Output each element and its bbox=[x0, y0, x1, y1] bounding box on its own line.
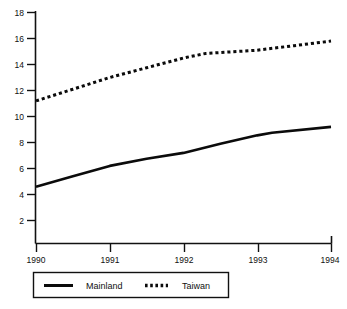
x-tick-label-1992: 1992 bbox=[175, 255, 194, 265]
line-chart: 18 16 14 12 10 8 6 4 2 1990 1991 1992 19… bbox=[0, 0, 347, 309]
y-tick-label-2: 2 bbox=[19, 216, 24, 226]
y-tick-label-16: 16 bbox=[15, 34, 25, 44]
x-axis-ticks bbox=[37, 244, 332, 253]
chart-legend: Mainland Taiwan bbox=[34, 273, 229, 298]
y-tick-label-6: 6 bbox=[19, 164, 24, 174]
legend-label-taiwan: Taiwan bbox=[182, 281, 210, 291]
y-tick-label-12: 12 bbox=[15, 86, 25, 96]
y-tick-label-18: 18 bbox=[15, 8, 25, 18]
series-line-taiwan bbox=[36, 41, 331, 101]
x-tick-label-1994: 1994 bbox=[321, 255, 340, 265]
y-axis-tick-labels: 18 16 14 12 10 8 6 4 2 bbox=[15, 8, 25, 226]
y-axis-ticks bbox=[27, 13, 36, 221]
y-tick-label-4: 4 bbox=[19, 190, 24, 200]
y-tick-label-10: 10 bbox=[15, 112, 25, 122]
chart-series-group bbox=[36, 41, 331, 187]
legend-label-mainland: Mainland bbox=[86, 281, 123, 291]
chart-canvas: 18 16 14 12 10 8 6 4 2 1990 1991 1992 19… bbox=[0, 0, 347, 309]
y-tick-label-8: 8 bbox=[19, 138, 24, 148]
series-line-mainland bbox=[36, 127, 331, 187]
x-tick-label-1990: 1990 bbox=[27, 255, 46, 265]
y-tick-label-14: 14 bbox=[15, 60, 25, 70]
x-tick-label-1993: 1993 bbox=[249, 255, 268, 265]
x-tick-label-1991: 1991 bbox=[101, 255, 120, 265]
x-axis-tick-labels: 1990 1991 1992 1993 1994 bbox=[27, 255, 340, 265]
